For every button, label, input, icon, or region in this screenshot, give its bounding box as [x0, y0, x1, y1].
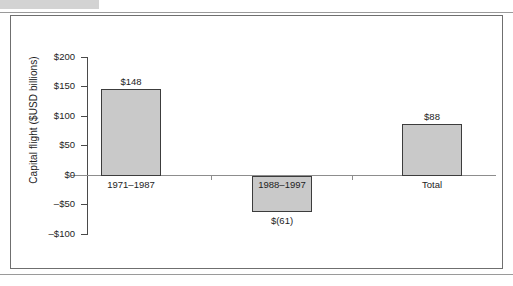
y-tick-mark: [81, 204, 88, 205]
y-tick-label: $0: [9, 170, 75, 180]
bar-1971-1987[interactable]: [101, 89, 161, 176]
x-tick-mark: [211, 176, 212, 180]
category-label-1971-1987: 1971–1987: [91, 179, 171, 190]
y-tick-mark: [81, 57, 88, 58]
y-tick-label: $50: [9, 140, 75, 150]
figure-page: Capital flight ($USD billions) $200 $150…: [0, 0, 513, 286]
bar-total[interactable]: [402, 124, 462, 176]
category-label-total: Total: [392, 179, 472, 190]
y-tick-mark: [81, 86, 88, 87]
y-tick-label: $150: [9, 81, 75, 91]
y-tick-label: –$100: [9, 229, 75, 239]
header-grey-block: [0, 0, 99, 9]
top-horizontal-rule: [0, 12, 513, 13]
bar-value-label-2: $(61): [242, 215, 322, 226]
chart-figure-frame: Capital flight ($USD billions) $200 $150…: [10, 15, 503, 269]
y-tick-label: –$50: [9, 199, 75, 209]
y-tick-mark: [81, 145, 88, 146]
y-tick-label: $100: [9, 111, 75, 121]
y-tick-mark: [81, 234, 88, 235]
category-label-1988-1997: 1988–1997: [242, 179, 322, 190]
bottom-horizontal-rule: [0, 274, 513, 275]
y-tick-mark: [81, 116, 88, 117]
y-tick-label: $200: [9, 52, 75, 62]
plot-area: Capital flight ($USD billions) $200 $150…: [11, 16, 504, 270]
x-tick-mark: [352, 176, 353, 180]
bar-value-label-3: $88: [392, 111, 472, 122]
bar-value-label-1: $148: [91, 76, 171, 87]
